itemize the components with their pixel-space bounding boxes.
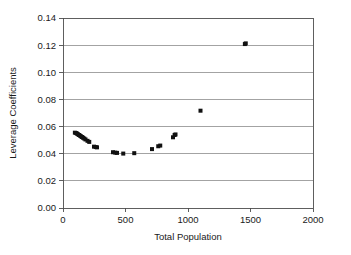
- y-tick-label: 0.08: [38, 94, 57, 105]
- data-point-group: [73, 41, 248, 155]
- data-point: [115, 151, 119, 155]
- data-point: [132, 151, 136, 155]
- data-point: [174, 132, 178, 136]
- x-tick-group: 0500100015002000: [60, 208, 323, 225]
- data-point: [199, 109, 203, 113]
- y-axis-title: Leverage Coefficients: [7, 67, 18, 159]
- y-tick-label: 0.00: [38, 202, 57, 213]
- x-tick-label: 1000: [177, 214, 198, 225]
- y-tick-label: 0.06: [38, 121, 57, 132]
- data-point: [158, 144, 162, 148]
- data-point: [244, 41, 248, 45]
- plot-frame: [63, 18, 313, 208]
- gridline-group: [63, 45, 313, 181]
- y-tick-group: 0.000.020.040.060.080.100.120.14: [38, 12, 64, 213]
- x-tick-label: 1500: [240, 214, 261, 225]
- x-tick-label: 0: [60, 214, 65, 225]
- y-tick-label: 0.02: [38, 175, 57, 186]
- axis-frame: [63, 18, 313, 208]
- y-tick-label: 0.12: [38, 40, 57, 51]
- data-point: [87, 140, 91, 144]
- scatter-plot: 0.000.020.040.060.080.100.120.14 0500100…: [0, 0, 351, 255]
- chart-figure: 0.000.020.040.060.080.100.120.14 0500100…: [0, 0, 351, 255]
- x-tick-label: 2000: [302, 214, 323, 225]
- y-tick-label: 0.10: [38, 67, 57, 78]
- data-point: [150, 147, 154, 151]
- x-axis-title: Total Population: [154, 231, 222, 242]
- y-tick-label: 0.04: [38, 148, 57, 159]
- data-point: [121, 152, 125, 156]
- data-point: [95, 145, 99, 149]
- y-tick-label: 0.14: [38, 12, 57, 23]
- x-tick-label: 500: [118, 214, 134, 225]
